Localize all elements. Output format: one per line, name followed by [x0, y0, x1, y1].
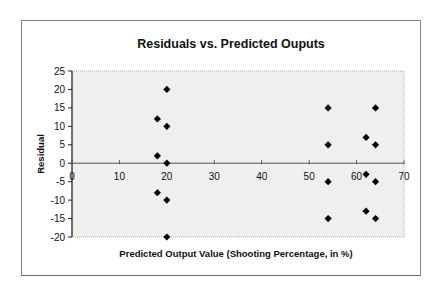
x-tick-label: 10 — [114, 171, 126, 182]
x-tick-label: 30 — [209, 171, 221, 182]
y-tick-label: -15 — [51, 213, 66, 224]
x-tick-label: 40 — [256, 171, 268, 182]
y-tick-label: -20 — [51, 232, 66, 243]
chart-title: Residuals vs. Predicted Ouputs — [137, 37, 325, 51]
x-tick-label: 0 — [69, 171, 75, 182]
y-tick-label: 10 — [54, 121, 66, 132]
y-axis-label: Residual — [35, 134, 46, 174]
plot-area — [72, 71, 404, 237]
x-axis-label: Predicted Output Value (Shooting Percent… — [119, 248, 352, 259]
y-tick-label: -5 — [56, 176, 65, 187]
scatter-chart: Residuals vs. Predicted Ouputs 252015105… — [0, 0, 440, 293]
y-tick-label: 20 — [54, 84, 66, 95]
y-tick-label: 15 — [54, 102, 66, 113]
y-tick-label: -10 — [51, 195, 66, 206]
x-tick-label: 50 — [304, 171, 316, 182]
y-tick-label: 0 — [59, 158, 65, 169]
x-tick-label: 70 — [398, 171, 410, 182]
x-tick-label: 60 — [351, 171, 363, 182]
y-tick-label: 25 — [54, 66, 66, 77]
y-tick-label: 5 — [59, 139, 65, 150]
x-tick-label: 20 — [161, 171, 173, 182]
